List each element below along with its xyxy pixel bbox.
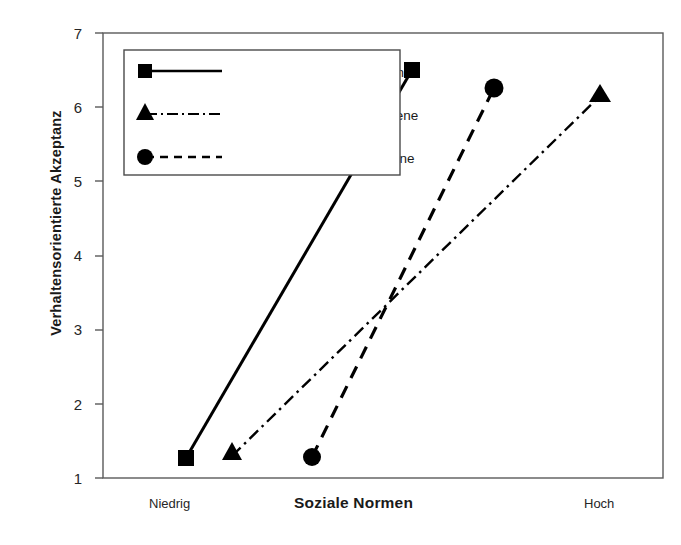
chart-figure: Verhaltensorientierte Akzeptanz 7 6 5 4 …: [0, 0, 681, 545]
series-obere-marker-right: [404, 62, 420, 78]
series-untere-marker-right: [485, 79, 504, 98]
circle-marker-icon: [137, 149, 153, 165]
series-untere-marker-left: [303, 448, 321, 466]
square-marker-icon: [138, 64, 152, 78]
y-axis-ticks: [95, 33, 103, 478]
series-mittlere-marker-left: [222, 442, 242, 460]
plot-canvas: [0, 0, 681, 545]
series-mittlere-marker-right: [589, 84, 611, 102]
series-obere-marker-left: [178, 450, 194, 466]
